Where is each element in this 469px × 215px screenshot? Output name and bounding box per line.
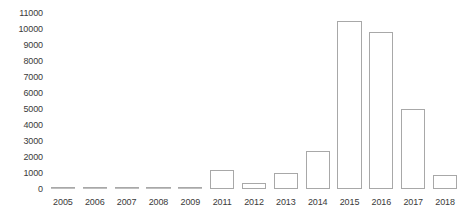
y-axis-tick-label: 7000 bbox=[23, 73, 43, 82]
bar-2016 bbox=[369, 32, 393, 189]
x-axis-tick-label-2011: 2011 bbox=[206, 197, 238, 207]
x-axis-tick-label-2009: 2009 bbox=[174, 197, 206, 207]
y-axis-tick-label: 9000 bbox=[23, 41, 43, 50]
y-axis-tick-label: 1000 bbox=[23, 169, 43, 178]
x-axis-tick-label-2012: 2012 bbox=[238, 197, 270, 207]
x-axis-tick-label-2018: 2018 bbox=[429, 197, 461, 207]
y-axis-tick-label: 4000 bbox=[23, 121, 43, 130]
bar-2005 bbox=[51, 187, 75, 189]
x-axis-tick-label-2014: 2014 bbox=[302, 197, 334, 207]
y-axis-tick-label: 10000 bbox=[18, 25, 43, 34]
x-axis-tick-label-2006: 2006 bbox=[79, 197, 111, 207]
bar-2011 bbox=[210, 170, 234, 189]
bar-2009 bbox=[178, 187, 202, 189]
plot-area: 2005200620072008200920112012201320142015… bbox=[47, 0, 461, 215]
y-axis-tick-label: 0 bbox=[38, 185, 43, 194]
bar-2015 bbox=[337, 21, 361, 189]
x-axis-tick-label-2007: 2007 bbox=[111, 197, 143, 207]
bar-2014 bbox=[306, 151, 330, 189]
x-axis-tick-label-2013: 2013 bbox=[270, 197, 302, 207]
x-axis-tick-label-2015: 2015 bbox=[334, 197, 366, 207]
bar-2012 bbox=[242, 183, 266, 189]
bar-2006 bbox=[83, 187, 107, 189]
bar-2007 bbox=[115, 187, 139, 189]
x-axis-tick-label-2005: 2005 bbox=[47, 197, 79, 207]
y-axis-tick-label: 6000 bbox=[23, 89, 43, 98]
y-axis: 0100020003000400050006000700080009000100… bbox=[0, 0, 46, 215]
y-axis-tick-label: 5000 bbox=[23, 105, 43, 114]
x-axis-tick-label-2008: 2008 bbox=[143, 197, 175, 207]
bar-2008 bbox=[146, 187, 170, 189]
bar-2018 bbox=[433, 175, 457, 189]
bar-2013 bbox=[274, 173, 298, 189]
x-axis-tick-label-2017: 2017 bbox=[397, 197, 429, 207]
y-axis-tick-label: 8000 bbox=[23, 57, 43, 66]
bar-chart-figure: 0100020003000400050006000700080009000100… bbox=[0, 0, 469, 215]
bar-2017 bbox=[401, 109, 425, 189]
y-axis-tick-label: 11000 bbox=[19, 9, 43, 18]
x-axis-tick-label-2016: 2016 bbox=[365, 197, 397, 207]
y-axis-tick-label: 3000 bbox=[23, 137, 43, 146]
y-axis-tick-label: 2000 bbox=[23, 153, 43, 162]
